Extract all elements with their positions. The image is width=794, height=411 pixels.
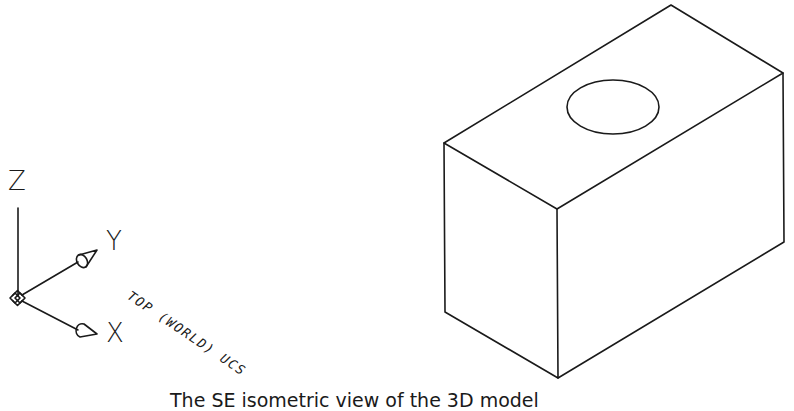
x-arrow-cone-icon [76, 324, 97, 337]
right-face [558, 73, 784, 378]
block-model [444, 5, 784, 378]
y-axis-label: Y [106, 228, 122, 254]
x-axis-label: X [106, 320, 124, 346]
x-axis-line [22, 301, 78, 330]
ucs-icon [10, 208, 97, 337]
figure-caption: The SE isometric view of the 3D model [170, 389, 539, 411]
left-face [444, 143, 558, 378]
y-arrow-cone-icon [74, 250, 97, 270]
circular-hole [567, 80, 659, 134]
y-axis-line [22, 262, 78, 295]
top-face [444, 5, 783, 209]
z-axis-label: Z [8, 168, 26, 194]
